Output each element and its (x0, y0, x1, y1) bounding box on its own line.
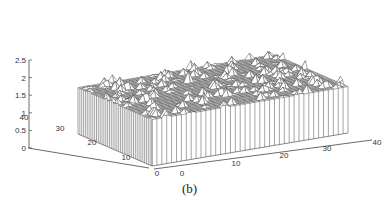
x-axis-line (154, 140, 372, 169)
z-tick-label: 2 (22, 74, 27, 83)
figure-caption: (b) (182, 181, 197, 197)
x-tick-label: 0 (180, 169, 185, 178)
z-tick-label: 2.5 (15, 56, 27, 65)
z-tick-label: 0 (22, 144, 27, 153)
y-tick-label: 20 (88, 138, 97, 147)
y-tick-label: 30 (56, 124, 65, 133)
x-tick-label: 40 (373, 138, 382, 147)
y-axis-line (28, 148, 149, 168)
surface-mesh-canvas: 00.511.522.5010203040010203040 (0, 0, 392, 206)
z-tick-label: 0.5 (15, 126, 27, 135)
y-tick-label: 40 (20, 113, 29, 122)
y-tick-label: 0 (155, 169, 160, 178)
x-tick-label: 30 (323, 144, 332, 153)
surface-plot: 00.511.522.5010203040010203040 (0, 0, 392, 206)
x-tick-label: 10 (232, 159, 241, 168)
z-tick-label: 1.5 (15, 91, 27, 100)
x-tick-label: 20 (280, 151, 289, 160)
